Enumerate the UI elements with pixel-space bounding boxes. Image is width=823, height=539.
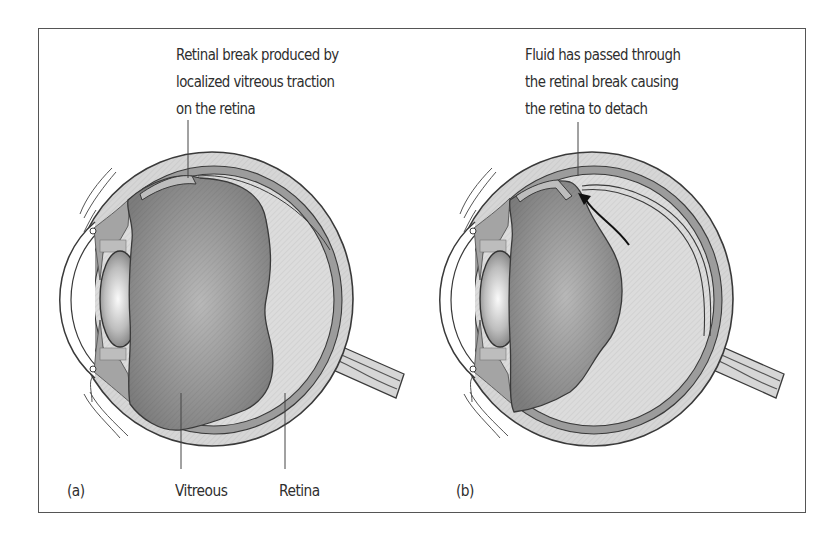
caption-b-line-2: the retinal break causing xyxy=(525,69,680,96)
caption-b-line-1: Fluid has passed through xyxy=(525,42,680,69)
eye-diagram xyxy=(0,0,823,539)
label-retina: Retina xyxy=(279,481,320,500)
caption-a-line-2: localized vitreous traction xyxy=(176,69,339,96)
caption-a-line-3: on the retina xyxy=(176,96,339,123)
caption-panel-a: Retinal break produced by localized vitr… xyxy=(176,42,339,123)
panel-label-a: (a) xyxy=(67,481,85,500)
caption-a-line-1: Retinal break produced by xyxy=(176,42,339,69)
caption-b-line-3: the retina to detach xyxy=(525,96,680,123)
label-vitreous: Vitreous xyxy=(175,481,227,500)
eye-b-illustration xyxy=(440,122,784,446)
caption-panel-b: Fluid has passed through the retinal bre… xyxy=(525,42,680,123)
eye-a-illustration xyxy=(60,120,404,469)
panel-label-b: (b) xyxy=(456,481,474,500)
